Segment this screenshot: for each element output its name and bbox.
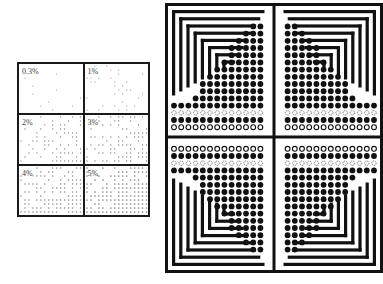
cell-label: 4% [22, 169, 33, 178]
dot-density-grid: 0.3% 1% 2% 3% 4% 5% [17, 62, 150, 217]
density-cell-2-percent: 2% [19, 115, 83, 164]
cell-label: 3% [88, 118, 99, 127]
density-cell-4-percent: 4% [19, 166, 83, 215]
cell-label: 2% [22, 118, 33, 127]
quadrant-dot-stripe-diagram [165, 3, 383, 273]
cell-label: 1% [88, 67, 99, 76]
density-cell-0-3-percent: 0.3% [19, 64, 83, 113]
density-cell-5-percent: 5% [85, 166, 149, 215]
cell-label: 5% [88, 169, 99, 178]
cell-label: 0.3% [22, 67, 39, 76]
density-cell-3-percent: 3% [85, 115, 149, 164]
density-cell-1-percent: 1% [85, 64, 149, 113]
